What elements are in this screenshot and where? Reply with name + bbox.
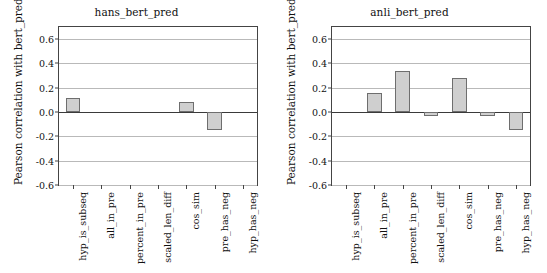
y-tick-mark <box>55 87 59 88</box>
y-tick-label: 0.6 <box>312 34 327 45</box>
x-tick-label: all_in_pre <box>105 192 116 239</box>
chart-panel-anli: anli_bert_pred Pearson correlation with … <box>273 0 546 273</box>
x-tick-label: scaled_len_diff <box>162 192 173 263</box>
y-gridline <box>59 63 257 64</box>
y-gridline <box>59 88 257 89</box>
x-tick-mark <box>130 185 131 189</box>
x-tick-mark <box>215 185 216 189</box>
y-tick-mark <box>55 136 59 137</box>
x-tick-label: hyp_is_subseq <box>77 192 88 261</box>
panel-title: anli_bert_pred <box>273 6 546 18</box>
y-tick-label: -0.2 <box>36 131 54 142</box>
x-tick-label: all_in_pre <box>378 192 389 239</box>
y-tick-mark <box>328 87 332 88</box>
y-gridline <box>59 161 257 162</box>
bar <box>179 102 194 112</box>
y-tick-mark <box>328 63 332 64</box>
bar <box>480 112 495 116</box>
x-tick-label: hyp_has_neg <box>520 192 531 254</box>
y-gridline <box>332 39 530 40</box>
y-tick-label: -0.6 <box>309 180 327 191</box>
x-tick-mark <box>186 185 187 189</box>
y-gridline <box>332 88 530 89</box>
x-tick-label: pre_has_neg <box>219 192 230 252</box>
x-tick-label: hyp_has_neg <box>247 192 258 254</box>
y-tick-mark <box>55 63 59 64</box>
y-tick-label: -0.6 <box>36 180 54 191</box>
x-tick-label: hyp_is_subseq <box>350 192 361 261</box>
x-tick-mark <box>243 185 244 189</box>
x-tick-mark <box>158 185 159 189</box>
y-tick-label: 0.0 <box>312 107 327 118</box>
plot-area: 0.60.40.20.0-0.2-0.4-0.6hyp_is_subseqall… <box>331 26 531 186</box>
bar <box>395 71 410 112</box>
plot-area: 0.60.40.20.0-0.2-0.4-0.6hyp_is_subseqall… <box>58 26 258 186</box>
bar <box>207 112 222 130</box>
y-tick-label: 0.4 <box>312 58 327 69</box>
bar <box>509 112 524 130</box>
bar <box>66 98 81 112</box>
y-tick-label: -0.4 <box>309 155 327 166</box>
figure-canvas: hans_bert_pred Pearson correlation with … <box>0 0 547 273</box>
y-tick-label: -0.4 <box>36 155 54 166</box>
x-tick-mark <box>516 185 517 189</box>
y-tick-label: 0.2 <box>39 82 54 93</box>
y-gridline <box>332 161 530 162</box>
x-tick-mark <box>346 185 347 189</box>
bar <box>367 93 382 112</box>
y-tick-label: 0.6 <box>39 34 54 45</box>
y-tick-mark <box>328 39 332 40</box>
y-tick-label: -0.2 <box>309 131 327 142</box>
bar <box>452 78 467 112</box>
y-gridline <box>59 39 257 40</box>
y-tick-mark <box>55 160 59 161</box>
y-tick-mark <box>55 185 59 186</box>
y-tick-label: 0.0 <box>39 107 54 118</box>
y-gridline <box>332 63 530 64</box>
y-tick-label: 0.4 <box>39 58 54 69</box>
y-gridline <box>332 136 530 137</box>
x-tick-label: scaled_len_diff <box>435 192 446 263</box>
x-tick-mark <box>374 185 375 189</box>
x-tick-label: cos_sim <box>463 192 474 230</box>
y-axis-label: Pearson correlation with bert_pred <box>285 0 297 185</box>
x-tick-mark <box>431 185 432 189</box>
x-tick-label: cos_sim <box>190 192 201 230</box>
y-tick-mark <box>55 39 59 40</box>
x-tick-mark <box>101 185 102 189</box>
bar <box>424 112 439 116</box>
y-tick-mark <box>328 136 332 137</box>
y-tick-mark <box>328 160 332 161</box>
x-tick-mark <box>73 185 74 189</box>
y-tick-label: 0.2 <box>312 82 327 93</box>
x-tick-mark <box>403 185 404 189</box>
chart-panel-hans: hans_bert_pred Pearson correlation with … <box>0 0 273 273</box>
panel-title: hans_bert_pred <box>0 6 273 18</box>
zero-axis-line <box>59 112 257 113</box>
y-tick-mark <box>328 185 332 186</box>
x-tick-label: percent_in_pre <box>134 192 145 264</box>
x-tick-label: percent_in_pre <box>407 192 418 264</box>
y-gridline <box>59 136 257 137</box>
x-tick-mark <box>459 185 460 189</box>
x-tick-label: pre_has_neg <box>492 192 503 252</box>
x-tick-mark <box>488 185 489 189</box>
y-axis-label: Pearson correlation with bert_pred <box>12 0 24 185</box>
